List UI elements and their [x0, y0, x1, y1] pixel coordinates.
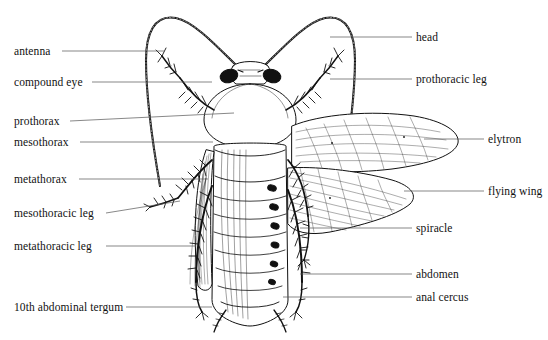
label-antenna: antenna [14, 46, 50, 58]
prothoracic-leg-right [286, 48, 344, 113]
leader-mesothoracic-leg [106, 201, 180, 213]
label-elytron: elytron [488, 134, 521, 146]
prothorax [204, 84, 296, 148]
label-tenth-abdominal-tergum: 10th abdominal tergum [14, 302, 123, 314]
label-mesothoracic-leg: mesothoracic leg [14, 208, 94, 220]
anal-cercus-right [274, 310, 287, 332]
label-flying-wing: flying wing [488, 186, 542, 198]
prothoracic-leg-left [156, 48, 214, 113]
label-prothoracic-leg: prothoracic leg [416, 74, 487, 86]
label-prothorax: prothorax [14, 116, 60, 128]
label-metathorax: metathorax [14, 174, 67, 186]
label-metathoracic-leg: metathoracic leg [14, 241, 92, 253]
thorax-abdomen [212, 143, 288, 326]
cockroach-illustration [0, 0, 548, 340]
label-head: head [416, 32, 438, 44]
label-compound-eye: compound eye [14, 77, 83, 89]
anal-cercus-left [213, 310, 226, 332]
label-mesothorax: mesothorax [14, 137, 69, 149]
cockroach-anatomy-figure: antennacompound eyeprothoraxmesothoraxme… [0, 0, 548, 340]
elytron [292, 113, 458, 172]
label-spiracle: spiracle [416, 223, 453, 235]
label-anal-cercus: anal cercus [416, 292, 469, 304]
flying-wing [288, 168, 413, 234]
label-abdomen: abdomen [416, 269, 459, 281]
